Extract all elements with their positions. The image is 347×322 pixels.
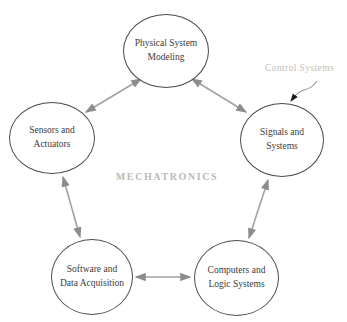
annotation-arrow: [0, 0, 347, 322]
annotation-arrow-curve: [291, 81, 317, 101]
mechatronics-diagram: Physical System Modeling Sensors and Act…: [0, 0, 347, 322]
